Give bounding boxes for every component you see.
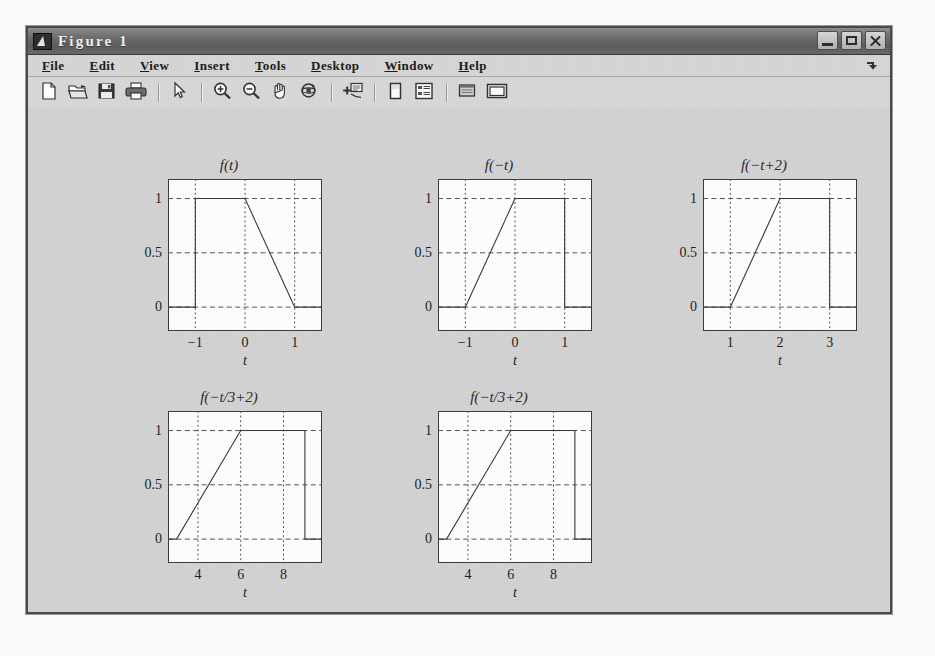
window-controls [817,31,886,50]
matlab-figure-icon [33,33,52,50]
y-tick-label: 0.5 [145,477,163,493]
x-axis-label: t [778,353,782,369]
y-tick-label: 0 [155,299,162,315]
plot-title: f(−t+2) [663,157,865,174]
menu-label-rest: dit [99,58,115,73]
x-axis-label: t [243,585,247,601]
y-tick-label: 0.5 [145,245,163,261]
matlab-figure-window: Figure 1 FileEditViewInsertToolsDesktopW… [26,26,892,614]
pan-hand-icon[interactable] [269,81,293,103]
menu-item-file[interactable]: File [42,58,65,74]
x-tick-label: 2 [777,335,784,351]
x-tick-label: 8 [280,567,287,583]
menu-label-rest: elp [469,58,487,73]
y-tick-label: 1 [425,423,432,439]
menu-item-desktop[interactable]: Desktop [311,58,359,74]
axes-graphics [703,179,857,331]
colorbar-icon[interactable] [384,81,408,103]
x-tick-label: 1 [561,335,568,351]
window-title-bar[interactable]: Figure 1 [28,28,890,55]
menu-mnemonic: W [384,58,397,73]
y-tick-label: 0 [690,299,697,315]
zoom-out-icon[interactable] [240,81,264,103]
separator-5 [446,83,448,102]
plot-2: f(−t)00.51−101t [398,157,600,372]
close-button[interactable] [865,31,886,50]
x-tick-label: 4 [464,567,471,583]
menu-mnemonic: E [90,58,99,73]
figure-canvas: f(t)00.51−101tf(−t)00.51−101tf(−t+2)00.5… [28,107,890,612]
menu-overflow-arrow-icon[interactable] [866,60,878,71]
x-tick-label: 3 [826,335,833,351]
menu-bar: FileEditViewInsertToolsDesktopWindowHelp [28,55,890,77]
plot-browser-icon[interactable] [456,81,480,103]
figure-palette-icon[interactable] [485,81,509,103]
close-icon [866,32,885,49]
x-axis-label: t [513,353,517,369]
menu-item-tools[interactable]: Tools [255,58,286,74]
x-tick-label: 1 [291,335,298,351]
y-tick-label: 1 [425,191,432,207]
y-tick-label: 0.5 [415,245,433,261]
minimize-button[interactable] [817,31,838,50]
x-axis-label: t [243,353,247,369]
axes[interactable]: 00.51−101t [168,179,322,331]
plot-title: f(t) [128,157,330,174]
menu-mnemonic: H [459,58,470,73]
pointer-arrow-icon[interactable] [168,81,192,103]
window-title: Figure 1 [58,33,129,50]
separator-3 [331,83,333,102]
plot-1: f(t)00.51−101t [128,157,330,372]
menu-item-view[interactable]: View [140,58,169,74]
plot-title: f(−t) [398,157,600,174]
axes[interactable]: 00.51468t [438,411,592,563]
menu-item-help[interactable]: Help [459,58,487,74]
maximize-button[interactable] [841,31,862,50]
axes[interactable]: 00.51468t [168,411,322,563]
toolbar [28,77,890,108]
axes-graphics [168,179,322,331]
y-tick-label: 0 [155,531,162,547]
scanned-page: Figure 1 FileEditViewInsertToolsDesktopW… [0,0,935,656]
zoom-in-icon[interactable] [211,81,235,103]
x-tick-label: −1 [188,335,203,351]
y-tick-label: 1 [155,423,162,439]
y-tick-label: 0.5 [680,245,698,261]
y-tick-label: 1 [155,191,162,207]
y-tick-label: 1 [690,191,697,207]
open-file-icon[interactable] [67,81,91,103]
x-tick-label: 1 [727,335,734,351]
new-figure-icon[interactable] [38,81,62,103]
x-tick-label: 0 [512,335,519,351]
menu-item-window[interactable]: Window [384,58,433,74]
menu-mnemonic: V [140,58,149,73]
axes-graphics [438,411,592,563]
x-tick-label: −1 [458,335,473,351]
legend-icon[interactable] [413,81,437,103]
menu-label-rest: nsert [200,58,230,73]
menu-item-insert[interactable]: Insert [194,58,230,74]
menu-label-rest: esktop [321,58,360,73]
separator-2 [201,83,203,102]
axes[interactable]: 00.51−101t [438,179,592,331]
menu-item-edit[interactable]: Edit [90,58,115,74]
axes-graphics [168,411,322,563]
plot-4: f(−t/3+2)00.51468t [128,389,330,604]
rotate-3d-icon[interactable] [298,81,322,103]
maximize-icon [842,32,861,49]
print-figure-icon[interactable] [125,81,149,103]
minimize-icon [818,32,837,49]
save-figure-icon[interactable] [96,81,120,103]
menu-label-rest: indow [398,58,434,73]
data-cursor-icon[interactable] [341,81,365,103]
x-tick-label: 8 [550,567,557,583]
x-tick-label: 6 [507,567,514,583]
separator-1 [158,83,160,102]
x-tick-label: 0 [242,335,249,351]
menu-label-rest: ools [263,58,286,73]
axes[interactable]: 00.51123t [703,179,857,331]
menu-mnemonic: T [255,58,263,73]
x-axis-label: t [513,585,517,601]
plot-3: f(−t+2)00.51123t [663,157,865,372]
plot-title: f(−t/3+2) [398,389,600,406]
